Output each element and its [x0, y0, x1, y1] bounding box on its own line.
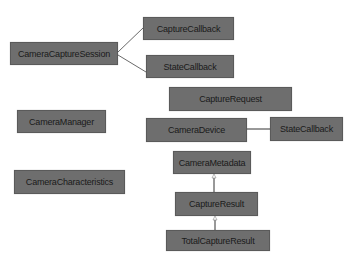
node-label: CaptureRequest	[199, 94, 262, 104]
node-capture-request[interactable]: CaptureRequest	[169, 87, 292, 111]
edge-session-capturecallback	[118, 28, 143, 52]
diagram-canvas: CameraCaptureSession CaptureCallback Sta…	[0, 0, 355, 264]
node-label: CameraCharacteristics	[26, 177, 113, 187]
inheritance-arrow-icon	[212, 174, 216, 178]
node-label: TotalCaptureResult	[182, 236, 255, 246]
node-capture-callback[interactable]: CaptureCallback	[143, 17, 234, 40]
node-label: StateCallback	[164, 62, 217, 72]
node-label: CaptureCallback	[157, 24, 221, 34]
node-state-callback-device[interactable]: StateCallback	[270, 117, 343, 141]
node-capture-result[interactable]: CaptureResult	[175, 192, 258, 216]
node-camera-device[interactable]: CameraDevice	[146, 118, 247, 142]
node-state-callback-session[interactable]: StateCallback	[146, 55, 234, 78]
edge-session-statecallback	[118, 55, 146, 72]
node-label: CameraDevice	[168, 125, 225, 135]
node-camera-metadata[interactable]: CameraMetadata	[173, 151, 251, 174]
node-camera-manager[interactable]: CameraManager	[17, 110, 106, 133]
node-label: CameraMetadata	[179, 158, 246, 168]
node-total-capture-result[interactable]: TotalCaptureResult	[166, 230, 270, 251]
node-label: StateCallback	[280, 124, 333, 134]
node-camera-capture-session[interactable]: CameraCaptureSession	[10, 42, 118, 65]
inheritance-arrow-icon	[213, 216, 217, 220]
node-label: CaptureResult	[189, 199, 244, 209]
node-camera-characteristics[interactable]: CameraCharacteristics	[14, 170, 125, 194]
node-label: CameraCaptureSession	[18, 49, 110, 59]
node-label: CameraManager	[29, 117, 94, 127]
